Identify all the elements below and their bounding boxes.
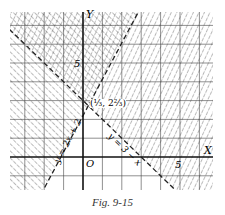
x-tick-5: 5 — [175, 159, 181, 170]
y-tick-5: 5 — [74, 58, 80, 69]
intersection-point-label: (⅓, 2⅔) — [90, 99, 126, 108]
x-axis-label: X — [204, 144, 212, 157]
origin-label: O — [86, 158, 94, 169]
figure-caption: Fig. 9-15 — [0, 196, 225, 208]
y-axis-label: Y — [86, 8, 93, 21]
